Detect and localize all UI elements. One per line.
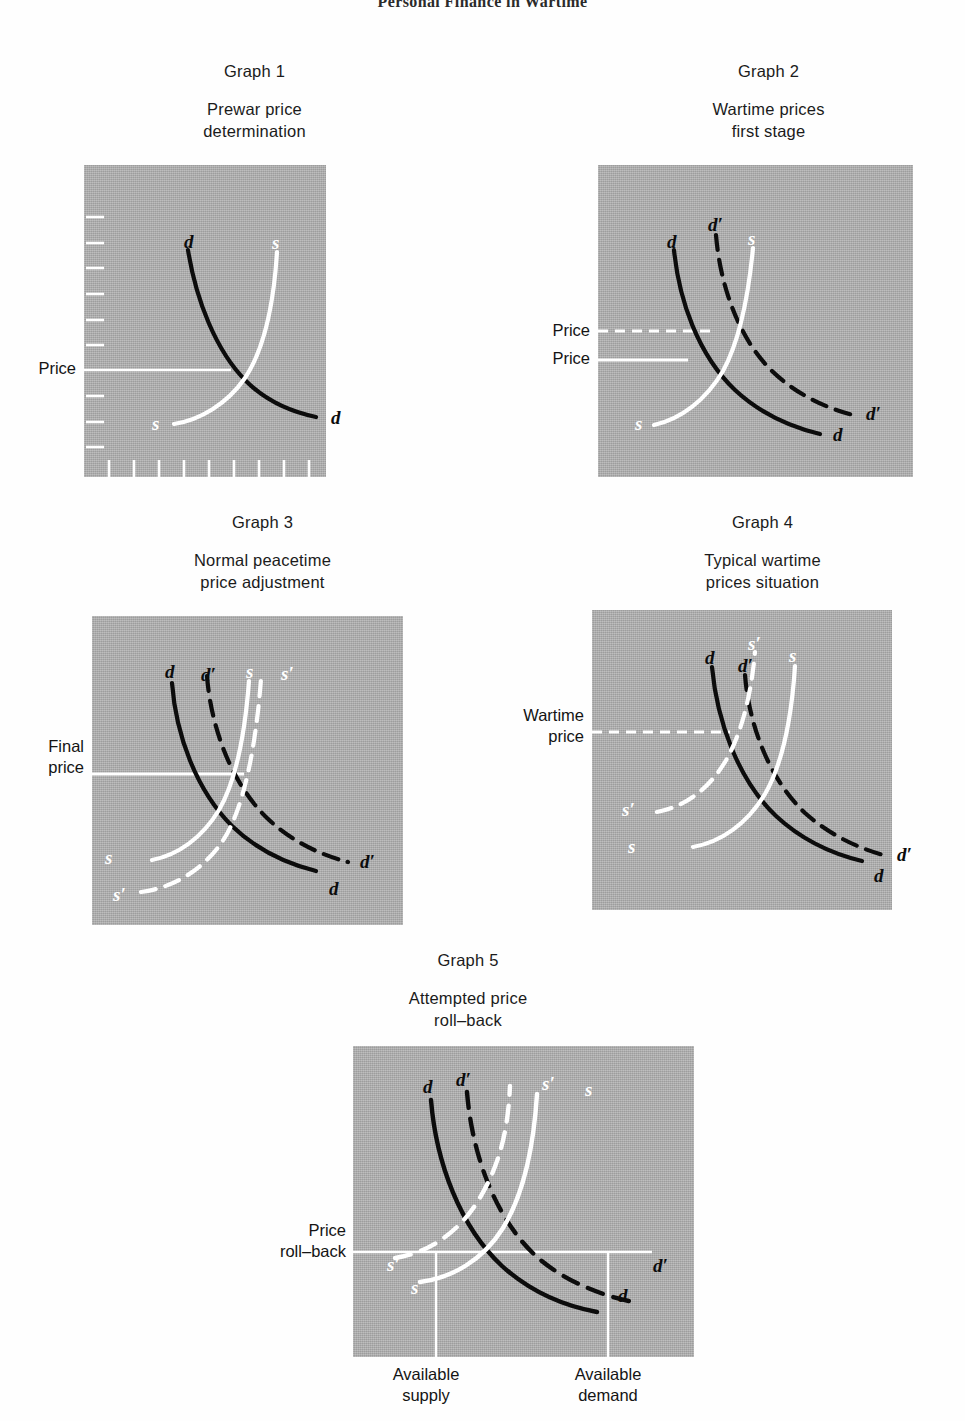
graph-5-glyph-demand-shifted-top: d′ <box>456 1070 471 1089</box>
graph-5-glyph-supply-shifted-top: s′ <box>542 1074 555 1093</box>
graph-5-glyph-supply-shifted-bottom: s′ <box>387 1255 400 1274</box>
graph-1-glyph-demand-top: d <box>184 232 194 251</box>
graph-5-glyph-demand-bottom: d <box>618 1286 628 1305</box>
graph-4-glyph-supply-bottom: s <box>628 837 635 856</box>
graph-2-supply-curve <box>654 248 753 425</box>
graph-1-curves <box>0 0 470 500</box>
graph-1-supply-curve <box>174 252 277 424</box>
graph-3-glyph-demand-bottom: d <box>329 879 339 898</box>
figure-graph-3: Graph 3 Normal peacetime price adjustmen… <box>0 490 470 920</box>
graph-5-glyph-supply-bottom: s <box>411 1278 418 1297</box>
graph-4-glyph-demand-shifted-top: d′ <box>738 656 753 675</box>
graph-1-glyph-supply-top: s <box>272 233 279 252</box>
graph-1-bottom-ticks <box>109 460 309 477</box>
graph-3-glyph-demand-shifted-top: d′ <box>201 665 216 684</box>
figure-graph-5: Graph 5 Attempted price roll–back Price … <box>240 930 740 1421</box>
graph-3-glyph-supply-bottom: s <box>105 848 112 867</box>
figure-graph-2: Graph 2 Wartime prices first stage Price… <box>495 0 965 500</box>
graph-3-glyph-supply-shifted-top: s′ <box>281 664 294 683</box>
graph-1-glyph-supply-bottom: s <box>152 414 159 433</box>
figure-graph-4: Graph 4 Typical wartime prices situation… <box>495 490 965 920</box>
graph-2-glyph-supply-top: s <box>748 229 755 248</box>
graph-4-supply-shifted-curve <box>657 652 755 812</box>
graph-2-demand-shifted-curve <box>716 235 853 415</box>
page-root: Personal Finance in Wartime Graph 1 Prew… <box>0 0 965 1421</box>
graph-3-glyph-supply-top: s <box>246 662 253 681</box>
graph-3-glyph-demand-shifted-bottom: d′ <box>360 852 375 871</box>
graph-2-glyph-demand-shifted-bottom: d′ <box>866 404 881 423</box>
graph-4-glyph-supply-top: s <box>789 646 796 665</box>
graph-4-demand-curve <box>712 667 862 861</box>
graph-5-glyph-demand-top: d <box>423 1077 433 1096</box>
graph-5-glyph-demand-shifted-bottom: d′ <box>653 1256 668 1275</box>
graph-4-glyph-demand-bottom: d <box>874 866 884 885</box>
graph-4-glyph-demand-shifted-bottom: d′ <box>897 845 912 864</box>
figure-graph-1: Graph 1 Prewar price determination Price <box>0 0 470 500</box>
graph-2-glyph-demand-bottom: d <box>833 425 843 444</box>
graph-2-curves <box>495 0 965 500</box>
graph-3-curves <box>0 490 470 920</box>
graph-2-glyph-demand-shifted-top: d′ <box>708 215 723 234</box>
graph-3-glyph-supply-shifted-bottom: s′ <box>113 885 126 904</box>
graph-5-glyph-supply-top: s <box>585 1080 592 1099</box>
graph-5-demand-shifted-curve <box>467 1092 639 1303</box>
graph-5-supply-curve <box>420 1094 537 1282</box>
graph-1-demand-curve <box>188 250 316 417</box>
graph-2-glyph-demand-top: d <box>667 232 677 251</box>
graph-4-glyph-supply-shifted-top: s′ <box>748 634 761 653</box>
graph-2-glyph-supply-bottom: s <box>635 414 642 433</box>
graph-4-glyph-demand-top: d <box>705 648 715 667</box>
graph-3-supply-curve <box>152 681 249 860</box>
graph-4-curves <box>495 490 965 920</box>
graph-5-supply-shifted-curve <box>395 1086 510 1258</box>
graph-3-glyph-demand-top: d <box>165 662 175 681</box>
graph-4-demand-shifted-curve <box>745 675 887 856</box>
graph-5-curves <box>240 930 740 1421</box>
graph-1-left-ticks <box>86 217 104 447</box>
graph-4-glyph-supply-shifted-bottom: s′ <box>622 800 635 819</box>
graph-1-glyph-demand-bottom: d <box>331 408 341 427</box>
